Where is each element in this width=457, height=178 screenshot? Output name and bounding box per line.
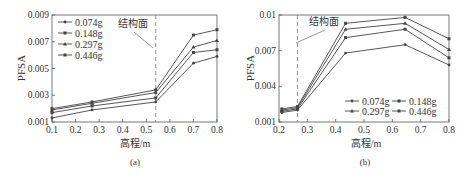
- legend-entry: 0.446g: [75, 50, 103, 61]
- x-tick-label: 0.3: [301, 125, 313, 135]
- x-tick-label: 0.5: [140, 125, 152, 135]
- annotation-label: 结构面: [309, 15, 339, 27]
- x-tick-label: 0.3: [93, 125, 105, 135]
- legend-entry: 0.297g: [362, 106, 390, 117]
- y-tick-label: 0.007: [255, 46, 277, 56]
- legend: 0.074g0.148g0.297g0.446g: [345, 96, 437, 117]
- x-axis-label-b: 高程/m: [326, 135, 406, 150]
- x-tick-label: 0.2: [273, 125, 285, 135]
- chart-panel-b: 0.0010.0040.0070.010.20.30.40.50.60.70.8…: [229, 0, 457, 178]
- panel-caption-b: (b): [350, 157, 380, 167]
- x-tick-label: 0.6: [386, 125, 398, 135]
- x-tick-label: 0.8: [211, 125, 223, 135]
- x-tick-label: 0.6: [164, 125, 176, 135]
- legend-entry: 0.148g: [75, 28, 103, 39]
- panel-caption-a: (a): [120, 157, 150, 167]
- y-tick-label: 0.01: [259, 10, 276, 20]
- y-tick-label: 0.009: [28, 10, 50, 20]
- y-axis-label-b: PFSA: [244, 53, 256, 83]
- legend-entry: 0.297g: [75, 39, 103, 50]
- line-chart-a: 0.0010.0030.0050.0070.0090.10.20.30.40.5…: [0, 0, 228, 178]
- y-tick-label: 0.007: [28, 37, 50, 47]
- x-axis-label-a: 高程/m: [95, 135, 175, 150]
- x-tick-label: 0.7: [415, 125, 427, 135]
- x-tick-label: 0.5: [358, 125, 370, 135]
- x-tick-label: 0.4: [330, 125, 342, 135]
- y-axis-label-a: PFSA: [15, 53, 27, 83]
- x-tick-label: 0.7: [187, 125, 199, 135]
- y-tick-label: 0.003: [28, 90, 50, 100]
- x-tick-label: 0.8: [443, 125, 455, 135]
- x-tick-label: 0.4: [117, 125, 129, 135]
- y-tick-label: 0.005: [28, 64, 50, 74]
- legend: 0.074g0.148g0.297g0.446g: [58, 17, 103, 61]
- x-tick-label: 0.2: [70, 125, 82, 135]
- series-0.074g: [51, 55, 219, 119]
- legend-entry: 0.074g: [75, 17, 103, 28]
- line-chart-b: 0.0010.0040.0070.010.20.30.40.50.60.70.8…: [229, 0, 457, 178]
- annotation-label: 结构面: [118, 17, 148, 29]
- chart-panel-a: 0.0010.0030.0050.0070.0090.10.20.30.40.5…: [0, 0, 228, 178]
- x-tick-label: 0.1: [46, 125, 58, 135]
- legend-entry: 0.446g: [409, 106, 437, 117]
- y-tick-label: 0.004: [255, 81, 277, 91]
